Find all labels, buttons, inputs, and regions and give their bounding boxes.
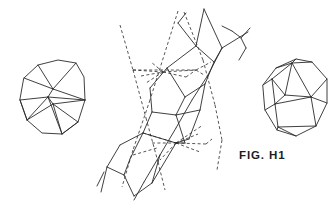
figure-background bbox=[0, 0, 336, 218]
figure-caption-label: FIG. H1 bbox=[239, 149, 286, 161]
figure-container: FIG. H1 bbox=[0, 0, 336, 218]
technical-figure-drawing bbox=[0, 0, 336, 218]
